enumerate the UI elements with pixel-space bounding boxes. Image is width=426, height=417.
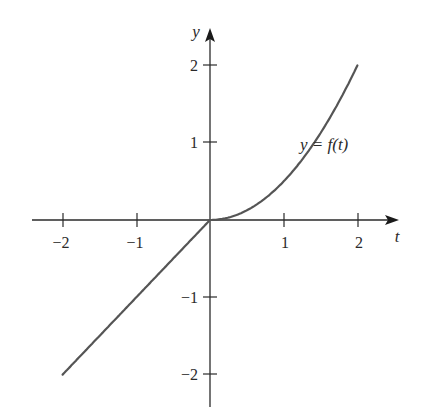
function-graph: −2 −1 1 2 2 1 −1 −2 y t y = f(t) <box>0 0 426 417</box>
x-tick-label: −1 <box>126 234 143 251</box>
y-tick-label: −1 <box>181 289 198 306</box>
x-tick-label: 2 <box>355 234 363 251</box>
y-tick-label: 1 <box>190 134 198 151</box>
y-tick-label: −2 <box>181 366 198 383</box>
y-tick-label: 2 <box>190 57 198 74</box>
y-axis-label: y <box>190 22 200 41</box>
curve-label: y = f(t) <box>298 135 349 154</box>
x-tick-label: −2 <box>52 234 69 251</box>
x-axis-label: t <box>395 227 401 246</box>
x-tick-label: 1 <box>281 234 289 251</box>
